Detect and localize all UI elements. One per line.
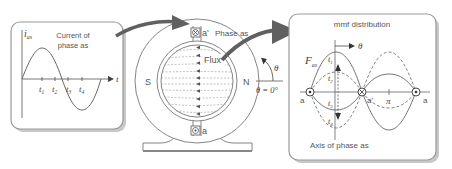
conductor-a-left-icon — [306, 88, 314, 96]
conductor-a-icon — [191, 126, 200, 135]
svg-text:a: a — [202, 126, 207, 136]
conductor-a-right-icon — [412, 88, 420, 96]
svg-text:θ = 0°: θ = 0° — [256, 85, 278, 95]
svg-text:a: a — [300, 96, 305, 105]
svg-text:a: a — [423, 96, 428, 105]
svg-text:mmf distribution: mmf distribution — [334, 20, 390, 29]
svg-text:Current of: Current of — [56, 31, 90, 40]
svg-text:phase as: phase as — [58, 41, 89, 50]
svg-text:θ: θ — [358, 41, 363, 51]
conductor-a-prime-icon — [191, 28, 200, 37]
svg-text:π: π — [386, 96, 391, 106]
diagram-stage: ias Current of phase as t t1 t2 t3 t4 — [0, 0, 452, 169]
svg-text:Phase as: Phase as — [215, 29, 248, 38]
current-waveform-panel: ias Current of phase as t t1 t2 t3 t4 — [11, 22, 126, 132]
svg-text:N: N — [243, 77, 250, 87]
svg-text:a': a' — [367, 96, 373, 105]
mmf-distribution-panel: mmf distribution θ Fas t1 t2 t3 t4 — [289, 14, 439, 163]
conductor-a-prime-mid-icon — [358, 88, 366, 96]
svg-text:a': a' — [202, 28, 209, 38]
svg-text:Flux: Flux — [204, 55, 222, 65]
machine-cross-section: Flux a' Phase as a S N θ θ = 0° — [135, 19, 283, 151]
svg-text:Axis of phase as: Axis of phase as — [310, 141, 369, 150]
svg-text:θ: θ — [274, 63, 279, 73]
svg-text:S: S — [145, 77, 151, 87]
